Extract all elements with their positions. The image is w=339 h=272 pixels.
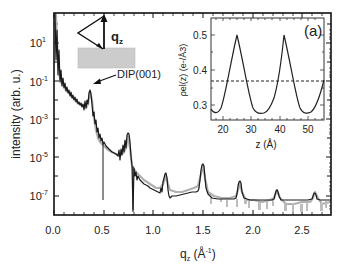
y-axis-label: intensity (arb. u.)	[9, 69, 23, 158]
dip001-annotation: DIP(001)	[93, 68, 161, 84]
inset-y-tick-labels: 0.5 0.4 0.3	[193, 30, 207, 111]
inset-x-axis-label: z (Å)	[255, 138, 276, 150]
qz-label: qz	[111, 29, 123, 46]
inset-y-axis-label: ρel(z) (e-/Å3)	[178, 44, 188, 97]
y-tick-label: 10-5	[30, 151, 49, 164]
inset-y-tick-label: 0.4	[193, 65, 207, 76]
scattering-schematic: qz	[78, 14, 135, 68]
x-axis-label: qz (Å-1)	[180, 246, 216, 262]
inset-x-tick-label: 50	[302, 124, 314, 135]
x-tick-label: 1.5	[195, 224, 210, 236]
y-tick-label: 101	[30, 36, 46, 49]
annotation-arrowhead-icon	[93, 79, 101, 85]
substrate-icon	[78, 48, 135, 68]
x-tick-label: 1.0	[145, 224, 160, 236]
x-tick-label: 2.0	[245, 224, 260, 236]
inset-y-tick-label: 0.5	[193, 30, 207, 41]
panel-label: (a)	[304, 22, 322, 39]
main-y-tick-labels: 101 10-1 10-3 10-5 10-7	[30, 36, 49, 202]
y-tick-label: 10-7	[30, 189, 49, 202]
x-tick-label: 0.0	[45, 224, 60, 236]
inset-x-tick-label: 20	[217, 124, 229, 135]
inset-y-tick-label: 0.3	[193, 100, 207, 111]
chart-svg: 0.0 0.5 1.0 1.5 2.0 2.5 101 10-1 10-3 10…	[0, 0, 339, 272]
inset-plot: 20 30 40 50 0.5 0.4 0.3 z (Å) ρel(z) (e-…	[178, 18, 324, 150]
inset-x-tick-label: 30	[245, 124, 257, 135]
beam-path-icon	[78, 16, 104, 49]
y-tick-label: 10-1	[30, 75, 49, 88]
x-tick-label: 2.5	[294, 224, 309, 236]
inset-x-tick-labels: 20 30 40 50	[217, 124, 314, 135]
inset-x-tick-label: 40	[274, 124, 286, 135]
main-x-tick-labels: 0.0 0.5 1.0 1.5 2.0 2.5	[45, 224, 309, 236]
y-tick-label: 10-3	[30, 113, 49, 126]
x-tick-label: 0.5	[94, 224, 109, 236]
dip001-label: DIP(001)	[117, 68, 161, 80]
figure: 0.0 0.5 1.0 1.5 2.0 2.5 101 10-1 10-3 10…	[0, 0, 339, 272]
